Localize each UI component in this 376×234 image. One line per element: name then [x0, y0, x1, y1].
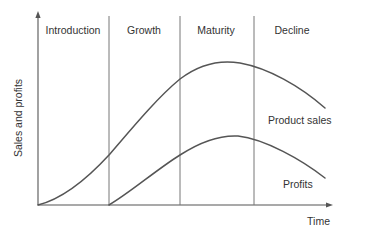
- curve-label-profits: Profits: [283, 178, 313, 190]
- curve-product-sales: [38, 62, 325, 205]
- y-axis-title: Sales and profits: [12, 79, 24, 157]
- y-axis-arrowhead-icon: [35, 11, 40, 18]
- x-axis-arrowhead-icon: [326, 202, 333, 207]
- chart-canvas: Introduction Growth Maturity Decline Pro…: [0, 0, 376, 234]
- stage-label-introduction: Introduction: [46, 24, 101, 36]
- x-axis-title: Time: [307, 215, 330, 227]
- curve-label-product-sales: Product sales: [268, 114, 332, 126]
- stage-label-decline: Decline: [274, 24, 309, 36]
- stage-label-growth: Growth: [127, 24, 161, 36]
- curve-profits: [109, 136, 325, 205]
- stage-label-maturity: Maturity: [197, 24, 235, 36]
- product-life-cycle-chart: Introduction Growth Maturity Decline Pro…: [0, 0, 376, 234]
